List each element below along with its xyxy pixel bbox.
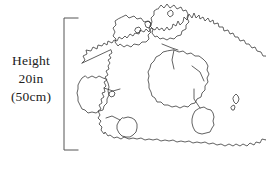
small-enclave-a (145, 21, 151, 28)
measurement-value-imperial: 20in (0, 70, 62, 88)
outer-contour (82, 13, 266, 146)
outline-shape-graphic (74, 0, 266, 179)
small-island-lower (231, 105, 235, 110)
small-enclave-c (168, 10, 173, 17)
boundary-line-d (192, 66, 204, 81)
height-measurement-label: Height 20in (50cm) (0, 52, 62, 106)
measurement-value-metric: (50cm) (0, 88, 62, 106)
boundary-line-e (194, 89, 200, 108)
interior-region-lower-mid (192, 107, 214, 134)
small-enclave-d (109, 91, 115, 97)
diagram-canvas: Height 20in (50cm) (0, 0, 266, 179)
interior-region-upper-left (113, 15, 151, 47)
small-island-upper (233, 94, 239, 104)
interior-region-central (148, 50, 209, 108)
measurement-caption: Height (0, 52, 62, 70)
boundary-line-a (162, 44, 178, 50)
boundary-line-b (172, 50, 174, 69)
boundary-line-f (106, 116, 120, 120)
boundary-line-c (104, 88, 120, 91)
